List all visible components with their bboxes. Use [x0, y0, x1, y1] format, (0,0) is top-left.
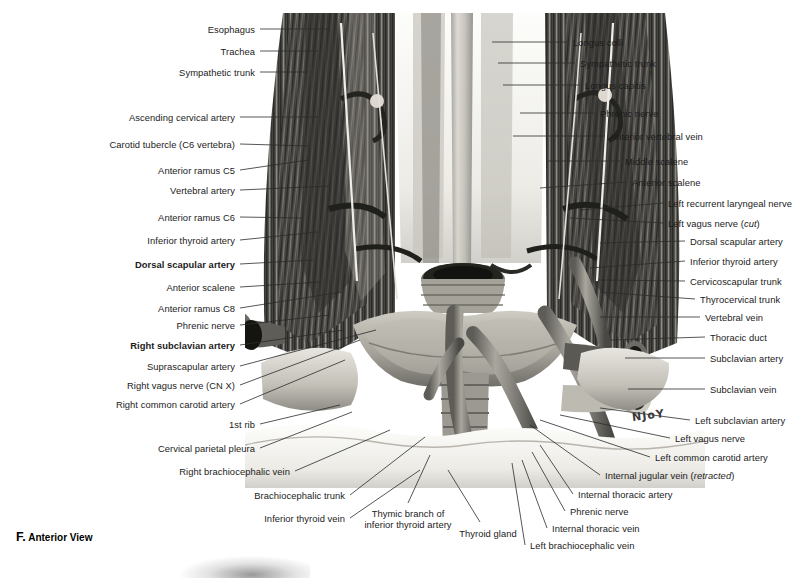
- anatomy-label: Anterior ramus C8: [158, 303, 235, 314]
- anatomy-label: Inferior thyroid artery: [147, 235, 235, 246]
- anatomy-label: Phrenic nerve: [570, 506, 629, 517]
- anatomy-label: Subclavian artery: [710, 353, 783, 364]
- anatomy-label: Middle scalene: [625, 156, 688, 167]
- anatomy-label: Carotid tubercle (C6 vertebra): [109, 139, 235, 150]
- anatomy-label: Trachea: [221, 46, 255, 57]
- anatomy-label: Internal jugular vein (retracted): [605, 470, 734, 481]
- anatomy-label: Left vagus nerve (cut): [668, 218, 760, 229]
- anatomy-label: Left vagus nerve: [675, 433, 745, 444]
- anatomy-label: Vertebral artery: [170, 185, 235, 196]
- anatomy-label: Anterior scalene: [166, 282, 235, 293]
- anatomy-label: Left subclavian artery: [695, 415, 785, 426]
- anatomy-label: Internal thoracic artery: [578, 489, 672, 500]
- anatomy-label: Internal thoracic vein: [552, 523, 640, 534]
- anatomy-label: Anterior vertebral vein: [610, 131, 703, 142]
- anatomy-label: Anterior scalene: [632, 177, 701, 188]
- anatomy-label: Brachiocephalic trunk: [254, 490, 345, 501]
- anatomy-label: Anterior ramus C6: [158, 212, 235, 223]
- anatomy-label: 1st rib: [229, 419, 255, 430]
- anatomy-label: Right vagus nerve (CN X): [127, 380, 235, 391]
- anatomy-label: Dorsal scapular artery: [135, 259, 235, 270]
- anatomy-label: Left brachiocephalic vein: [530, 540, 634, 551]
- anatomy-label: Subclavian vein: [710, 384, 776, 395]
- anatomy-label: Left common carotid artery: [655, 452, 768, 463]
- anatomy-label: Thyroid gland: [459, 528, 516, 539]
- anatomy-label: Longus capitis: [585, 80, 646, 91]
- anatomy-label: Sympathetic trunk: [580, 58, 656, 69]
- figure-caption-text: Anterior View: [28, 532, 92, 543]
- anatomy-label: Suprascapular artery: [147, 361, 235, 372]
- anatomy-label: Right subclavian artery: [130, 340, 235, 351]
- next-figure-fragment: [180, 556, 310, 578]
- anatomy-label: Vertebral vein: [705, 312, 763, 323]
- anatomy-label: Cervicoscapular trunk: [690, 276, 782, 287]
- anatomy-label: Thymic branch ofinferior thyroid artery: [364, 508, 451, 530]
- anatomy-label: Ascending cervical artery: [129, 112, 235, 123]
- anatomy-label: Thoracic duct: [710, 332, 767, 343]
- anatomy-label: Right common carotid artery: [116, 399, 235, 410]
- anatomy-label: Cervical parietal pleura: [158, 443, 255, 454]
- anatomy-label: Inferior thyroid artery: [690, 256, 778, 267]
- anatomy-label: Phrenic nerve: [177, 320, 236, 331]
- anatomy-label: Phrenic nerve: [600, 108, 659, 119]
- figure-caption: F. Anterior View: [16, 530, 92, 544]
- anatomy-label: Longus colli: [573, 37, 623, 48]
- anatomy-label: Sympathetic trunk: [179, 67, 255, 78]
- anatomy-label: Dorsal scapular artery: [690, 236, 783, 247]
- anatomy-label: Esophagus: [208, 24, 255, 35]
- anatomy-label: Thyrocervical trunk: [700, 294, 780, 305]
- anatomy-label: Inferior thyroid vein: [264, 513, 345, 524]
- anatomy-label: Right brachiocephalic vein: [179, 466, 290, 477]
- anatomy-label: Anterior ramus C5: [158, 165, 235, 176]
- figure-letter: F.: [16, 530, 26, 544]
- anatomy-label: Left recurrent laryngeal nerve: [668, 198, 792, 209]
